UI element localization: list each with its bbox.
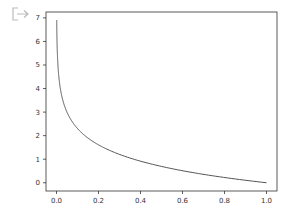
x-tick-label: 1.0 — [261, 197, 272, 205]
x-axis-ticks: 0.00.20.40.60.81.0 — [51, 191, 272, 205]
y-axis-ticks: 01234567 — [36, 14, 46, 187]
y-tick-label: 3 — [36, 109, 40, 117]
y-tick-label: 2 — [36, 132, 40, 140]
data-line — [57, 20, 267, 183]
y-tick-label: 0 — [36, 179, 40, 187]
axes-border — [46, 12, 277, 191]
y-tick-label: 1 — [36, 156, 40, 164]
x-tick-label: 0.2 — [93, 197, 104, 205]
x-tick-label: 0.6 — [177, 197, 189, 205]
plot-frame — [46, 12, 277, 191]
line-chart: 0.00.20.40.60.81.0 01234567 — [0, 0, 289, 217]
y-tick-label: 6 — [36, 38, 41, 46]
x-tick-label: 0.8 — [219, 197, 230, 205]
x-tick-label: 0.0 — [51, 197, 62, 205]
y-tick-label: 4 — [36, 85, 41, 93]
x-tick-label: 0.4 — [135, 197, 147, 205]
y-tick-label: 5 — [36, 61, 40, 69]
y-tick-label: 7 — [36, 14, 40, 22]
